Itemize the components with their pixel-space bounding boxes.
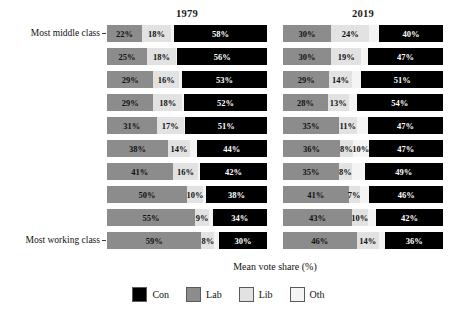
bar-segment-value: 42%	[225, 167, 242, 177]
bar-segment-value: 30%	[234, 236, 251, 246]
stacked-bar-1979: 29%18%1%52%	[107, 94, 267, 111]
bar-segment-oth: 8%	[352, 163, 365, 180]
bar-segment-lab: 35%	[283, 117, 339, 134]
bar-segment-lib: 8%	[339, 163, 352, 180]
x-axis-label: Mean vote share (%)	[107, 261, 443, 272]
bar-segment-value: 9%	[196, 213, 209, 223]
stacked-bar-2019: 43%10%5%42%	[283, 209, 443, 226]
bar-segment-value: 8%	[201, 236, 214, 246]
bar-segment-value: 31%	[123, 121, 140, 131]
bar-segment-value: 41%	[307, 190, 324, 200]
bar-segment-lib: 18%	[142, 25, 171, 42]
chart-legend: ConLabLibOth	[0, 287, 457, 302]
bar-segment-value: 46%	[311, 236, 328, 246]
panel-titles: 1979 2019	[0, 8, 457, 22]
bar-segment-value: 16%	[158, 75, 175, 85]
bar-segment-lab: 43%	[283, 209, 352, 226]
bar-segment-con: 47%	[368, 48, 443, 65]
bar-segment-con: 42%	[200, 163, 267, 180]
legend-label: Lib	[259, 289, 273, 300]
panel-title-2019: 2019	[283, 8, 443, 19]
bar-segment-value: 14%	[332, 75, 349, 85]
bar-segment-con: 47%	[368, 117, 443, 134]
bar-segment-lab: 30%	[283, 25, 331, 42]
bar-segment-value: 28%	[297, 98, 314, 108]
bar-segment-value: 8%	[340, 144, 353, 154]
chart-row: 25%18%1%56%30%19%4%47%	[0, 45, 457, 68]
bar-segment-value: 29%	[298, 75, 315, 85]
bar-segment-value: 18%	[159, 98, 176, 108]
bar-segment-value: 14%	[359, 236, 376, 246]
bar-segment-con: 46%	[369, 186, 443, 203]
bar-segment-value: 10%	[351, 213, 368, 223]
legend-label: Con	[152, 289, 169, 300]
bar-segment-lib: 8%	[201, 232, 214, 249]
bar-segment-value: 47%	[397, 144, 414, 154]
bar-segment-oth: 6%	[369, 25, 379, 42]
bar-segment-value: 42%	[401, 213, 418, 223]
bar-segment-lab: 28%	[283, 94, 328, 111]
bar-segment-value: 38%	[129, 144, 146, 154]
stacked-bar-2019: 41%7%6%46%	[283, 186, 443, 203]
bar-segment-value: 24%	[342, 29, 359, 39]
bar-segment-lab: 31%	[107, 117, 157, 134]
stacked-bar-2019: 28%13%5%54%	[283, 94, 443, 111]
bar-segment-con: 49%	[365, 163, 443, 180]
bar-segment-value: 49%	[395, 167, 412, 177]
bar-segment-value: 7%	[348, 190, 361, 200]
stacked-bar-2019: 46%14%4%36%	[283, 232, 443, 249]
bar-segment-lab: 36%	[283, 140, 340, 157]
bar-segment-lib: 14%	[357, 232, 379, 249]
chart-row: Most working class59%8%3%30%46%14%4%36%	[0, 229, 457, 252]
bar-segment-value: 35%	[303, 167, 320, 177]
bar-segment-value: 38%	[228, 190, 245, 200]
bar-segment-value: 36%	[406, 236, 423, 246]
bar-segment-con: 40%	[379, 25, 443, 42]
bar-segment-lab: 41%	[283, 186, 349, 203]
stacked-bar-1979: 41%16%1%42%	[107, 163, 267, 180]
bar-segment-lab: 22%	[107, 25, 142, 42]
bar-segment-value: 58%	[212, 29, 229, 39]
bar-segment-lab: 50%	[107, 186, 187, 203]
bar-segment-lib: 11%	[339, 117, 357, 134]
bar-segment-oth: 10%	[353, 140, 369, 157]
bar-segment-oth: 5%	[368, 209, 376, 226]
bar-segment-value: 44%	[223, 144, 240, 154]
chart-row: Most middle class22%18%2%58%30%24%6%40%	[0, 22, 457, 45]
legend-swatch-con-icon	[132, 287, 147, 302]
axis-tick	[102, 33, 106, 34]
bar-segment-oth: 6%	[352, 71, 362, 88]
bar-segment-value: 47%	[397, 52, 414, 62]
stacked-bar-1979: 55%9%2%34%	[107, 209, 267, 226]
bar-segment-con: 38%	[206, 186, 267, 203]
bar-segment-value: 51%	[394, 75, 411, 85]
bar-segment-lib: 13%	[328, 94, 349, 111]
legend-item-oth[interactable]: Oth	[290, 287, 325, 302]
stacked-bar-1979: 29%16%2%53%	[107, 71, 267, 88]
bar-segment-value: 30%	[299, 52, 316, 62]
bar-segment-lib: 19%	[331, 48, 361, 65]
stacked-bar-2019: 35%11%7%47%	[283, 117, 443, 134]
bar-segment-con: 53%	[182, 71, 267, 88]
legend-item-lab[interactable]: Lab	[186, 287, 222, 302]
bar-segment-lib: 24%	[331, 25, 369, 42]
legend-item-con[interactable]: Con	[132, 287, 169, 302]
chart-row: 50%10%2%38%41%7%6%46%	[0, 183, 457, 206]
bar-segment-value: 17%	[162, 121, 179, 131]
bar-segment-value: 36%	[303, 144, 320, 154]
bar-segment-lib: 8%	[340, 140, 353, 157]
bar-segment-value: 25%	[119, 52, 136, 62]
legend-item-lib[interactable]: Lib	[239, 287, 273, 302]
bar-segment-lib: 16%	[153, 71, 179, 88]
bar-segment-con: 51%	[185, 117, 267, 134]
bar-segment-oth: 6%	[360, 186, 370, 203]
bar-segment-lab: 30%	[283, 48, 331, 65]
bar-rows: Most middle class22%18%2%58%30%24%6%40%2…	[0, 22, 457, 252]
bar-segment-lab: 25%	[107, 48, 147, 65]
bar-segment-value: 43%	[309, 213, 326, 223]
bar-segment-value: 54%	[391, 98, 408, 108]
chart-row: 29%16%2%53%29%14%6%51%	[0, 68, 457, 91]
chart-canvas: 1979 2019 Most middle class22%18%2%58%30…	[0, 0, 457, 319]
stacked-bar-2019: 35%8%8%49%	[283, 163, 443, 180]
bar-segment-lab: 59%	[107, 232, 201, 249]
